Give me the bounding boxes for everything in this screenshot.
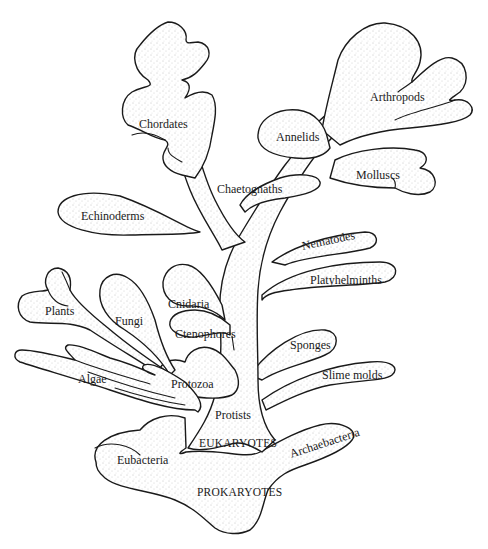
- chordates-lobe: [122, 22, 215, 178]
- arthropods-lobe: [322, 23, 472, 145]
- label-slime-molds: Slime molds: [322, 369, 382, 381]
- label-arthropods: Arthropods: [370, 91, 425, 103]
- tree-of-life-diagram: [0, 0, 488, 549]
- label-annelids: Annelids: [276, 131, 319, 143]
- label-chaetognaths: Chaetognaths: [217, 183, 282, 195]
- label-platyhelminths: Platyhelminths: [310, 274, 382, 286]
- label-protists: Protists: [215, 409, 251, 421]
- label-eubacteria: Eubacteria: [117, 454, 168, 466]
- label-sponges: Sponges: [290, 339, 331, 351]
- label-protozoa: Protozoa: [171, 378, 214, 390]
- label-ctenophores: Ctenophores: [175, 328, 236, 340]
- label-chordates: Chordates: [139, 118, 188, 130]
- label-fungi: Fungi: [115, 315, 143, 327]
- label-cnidaria: Cnidaria: [168, 298, 209, 310]
- label-eukaryotes: EUKARYOTES: [199, 438, 277, 450]
- label-algae: Algae: [78, 373, 107, 385]
- label-plants: Plants: [45, 305, 74, 317]
- label-prokaryotes: PROKARYOTES: [197, 487, 282, 499]
- label-echinoderms: Echinoderms: [81, 210, 144, 222]
- label-molluscs: Molluscs: [356, 169, 400, 181]
